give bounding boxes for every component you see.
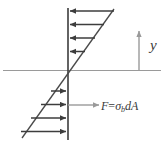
stress-distribution-svg (0, 0, 168, 146)
force-differential-area: dA (125, 99, 138, 113)
force-equation-label: F=σbdA (101, 99, 138, 114)
y-axis-label: y (150, 37, 157, 54)
compression-arrow-group (70, 11, 114, 52)
tension-arrow-group (21, 91, 66, 132)
figure-canvas: y F=σbdA (0, 0, 168, 146)
